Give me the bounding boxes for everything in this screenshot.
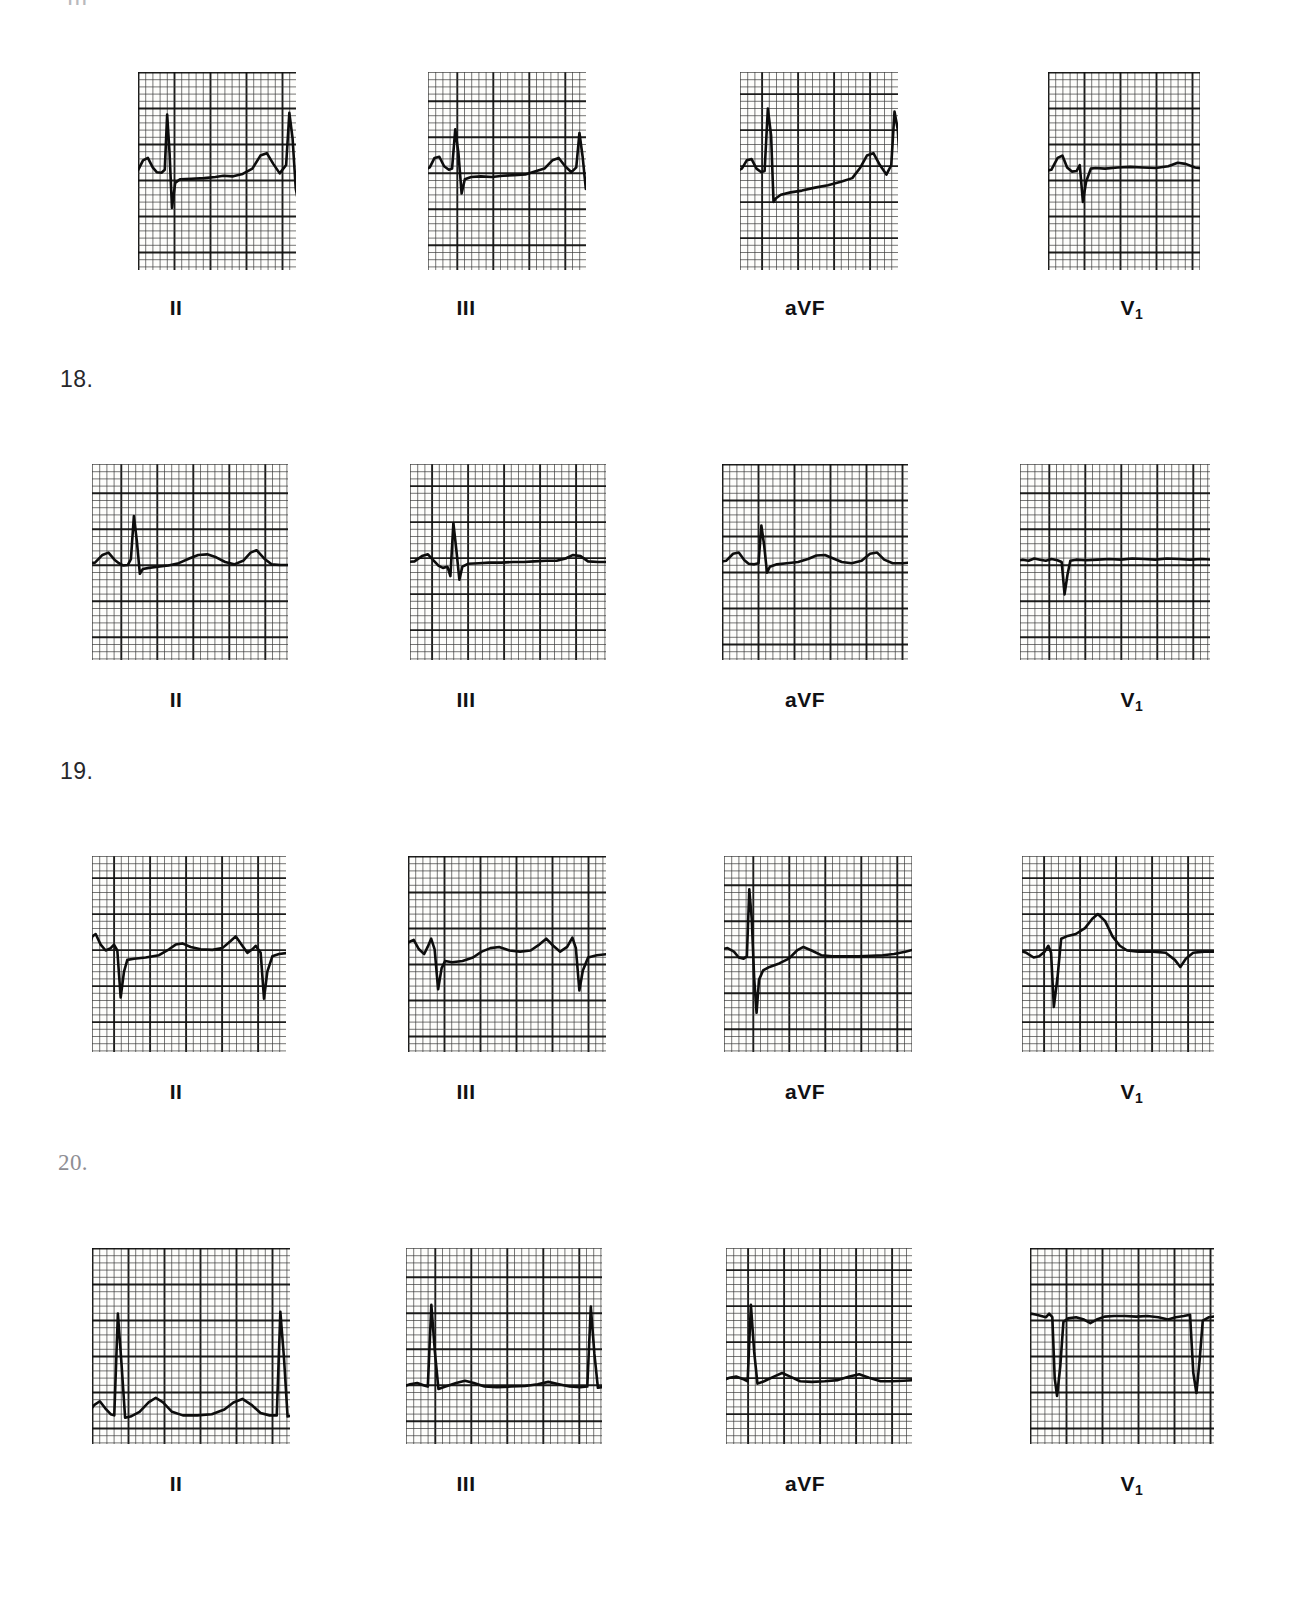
lead-label-v: V1 <box>1072 688 1192 712</box>
ecg-strip-v1 <box>1048 72 1200 270</box>
ecg-trace-iii <box>410 464 606 660</box>
ecg-strip-ii <box>92 464 288 660</box>
lead-label-text: V <box>1121 1080 1136 1103</box>
lead-label-text: III <box>456 688 475 711</box>
ecg-strip-ii <box>92 856 286 1052</box>
lead-label-text: V <box>1121 688 1136 711</box>
ecg-trace-avf <box>722 464 908 660</box>
lead-label-iii: III <box>406 688 526 712</box>
ecg-strip-ii <box>92 1248 290 1444</box>
ecg-trace-ii <box>138 72 296 270</box>
lead-label-avf: aVF <box>745 296 865 320</box>
lead-label-text: aVF <box>785 1080 825 1103</box>
ecg-strip-ii <box>138 72 296 270</box>
ecg-trace-avf <box>740 72 898 270</box>
lead-label-text: aVF <box>785 1472 825 1495</box>
lead-label-v: V1 <box>1072 1080 1192 1104</box>
ecg-trace-v1 <box>1048 72 1200 270</box>
ecg-trace-iii <box>428 72 586 270</box>
ecg-strip-iii <box>408 856 606 1052</box>
ecg-strip-iii <box>428 72 586 270</box>
ecg-strip-avf <box>724 856 912 1052</box>
ecg-strip-v1 <box>1022 856 1214 1052</box>
ecg-trace-ii <box>92 1248 290 1444</box>
lead-label-text: II <box>170 688 183 711</box>
lead-label-text: aVF <box>785 688 825 711</box>
lead-label-text: II <box>170 1472 183 1495</box>
ecg-trace-v1 <box>1030 1248 1214 1444</box>
lead-label-text: aVF <box>785 296 825 319</box>
lead-label-subscript: 1 <box>1135 306 1143 322</box>
ecg-strip-avf <box>726 1248 912 1444</box>
lead-label-subscript: 1 <box>1135 1482 1143 1498</box>
lead-label-ii: II <box>116 1080 236 1104</box>
ecg-trace-ii <box>92 856 286 1052</box>
question-number-20: 20. <box>58 1150 88 1176</box>
page-header-remnant: III <box>68 0 114 5</box>
ecg-strip-iii <box>406 1248 602 1444</box>
ecg-strip-v1 <box>1030 1248 1214 1444</box>
lead-label-v: V1 <box>1072 296 1192 320</box>
lead-label-text: V <box>1121 296 1136 319</box>
lead-label-ii: II <box>116 688 236 712</box>
lead-label-avf: aVF <box>745 1080 865 1104</box>
question-number-19: 19. <box>60 758 93 785</box>
lead-label-ii: II <box>116 1472 236 1496</box>
ecg-strip-v1 <box>1020 464 1210 660</box>
lead-label-text: V <box>1121 1472 1136 1495</box>
ecg-trace-ii <box>92 464 288 660</box>
question-number-18: 18. <box>60 366 93 393</box>
ecg-trace-avf <box>724 856 912 1052</box>
lead-label-v: V1 <box>1072 1472 1192 1496</box>
lead-label-text: III <box>456 1472 475 1495</box>
lead-label-subscript: 1 <box>1135 1090 1143 1106</box>
lead-label-ii: II <box>116 296 236 320</box>
ecg-trace-v1 <box>1022 856 1214 1052</box>
lead-label-iii: III <box>406 1472 526 1496</box>
ecg-trace-iii <box>408 856 606 1052</box>
lead-label-text: II <box>170 1080 183 1103</box>
lead-label-text: II <box>170 296 183 319</box>
lead-label-text: III <box>456 1080 475 1103</box>
lead-label-iii: III <box>406 296 526 320</box>
ecg-strip-iii <box>410 464 606 660</box>
lead-label-avf: aVF <box>745 1472 865 1496</box>
lead-label-avf: aVF <box>745 688 865 712</box>
lead-label-subscript: 1 <box>1135 698 1143 714</box>
lead-label-text: III <box>456 296 475 319</box>
ecg-trace-iii <box>406 1248 602 1444</box>
ecg-trace-v1 <box>1020 464 1210 660</box>
ecg-strip-avf <box>740 72 898 270</box>
lead-label-iii: III <box>406 1080 526 1104</box>
ecg-strip-avf <box>722 464 908 660</box>
ecg-trace-avf <box>726 1248 912 1444</box>
